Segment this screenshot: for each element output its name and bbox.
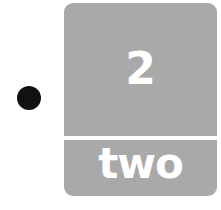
- number-card: 2 two: [64, 3, 217, 196]
- card-number-section: 2: [64, 3, 217, 136]
- card-number: 2: [125, 47, 156, 91]
- bullet-dot-icon: [17, 86, 41, 110]
- card-word-section: two: [64, 140, 217, 196]
- card-word: two: [98, 143, 183, 185]
